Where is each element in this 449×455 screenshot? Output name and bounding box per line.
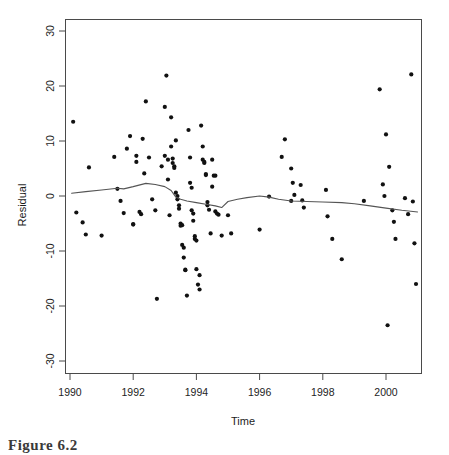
data-point: [197, 287, 201, 291]
data-point: [160, 164, 164, 168]
data-point: [118, 199, 122, 203]
data-point: [131, 223, 135, 227]
y-tick-label: -20: [44, 298, 56, 313]
data-point: [384, 132, 388, 136]
data-point: [139, 212, 143, 216]
data-point: [87, 165, 91, 169]
y-tick-label: 10: [44, 135, 56, 147]
x-tick-label: 1994: [185, 386, 209, 398]
data-point: [387, 165, 391, 169]
data-point: [163, 105, 167, 109]
data-point: [362, 199, 366, 203]
data-point: [411, 199, 415, 203]
x-tick-label: 1992: [122, 386, 146, 398]
data-point: [81, 220, 85, 224]
data-point: [163, 154, 167, 158]
data-point: [385, 323, 389, 327]
data-point: [177, 207, 181, 211]
data-point: [186, 128, 190, 132]
data-point: [403, 196, 407, 200]
data-point: [280, 155, 284, 159]
x-axis-title: Time: [231, 415, 255, 427]
data-point: [128, 134, 132, 138]
data-point: [180, 223, 184, 227]
data-point: [122, 211, 126, 215]
data-point: [84, 232, 88, 236]
data-point: [283, 137, 287, 141]
data-point: [150, 197, 154, 201]
data-point: [392, 220, 396, 224]
data-point: [201, 144, 205, 148]
data-point: [125, 147, 129, 151]
data-point: [112, 155, 116, 159]
y-tick-label: -30: [44, 353, 56, 368]
data-point: [74, 210, 78, 214]
data-point: [182, 246, 186, 250]
data-point: [174, 138, 178, 142]
data-point: [183, 268, 187, 272]
data-point: [289, 166, 293, 170]
data-point: [207, 208, 211, 212]
data-point: [382, 194, 386, 198]
data-point: [171, 157, 175, 161]
data-point: [100, 234, 104, 238]
data-point: [325, 214, 329, 218]
data-point: [71, 120, 75, 124]
y-axis-title: Residual: [16, 184, 28, 227]
y-tick-label: 30: [44, 25, 56, 37]
data-point: [406, 212, 410, 216]
data-point: [182, 256, 186, 260]
data-point: [194, 267, 198, 271]
data-point: [141, 137, 145, 141]
data-point: [324, 188, 328, 192]
data-point: [226, 213, 230, 217]
x-tick-label: 1998: [311, 386, 335, 398]
data-point: [188, 155, 192, 159]
data-point: [340, 257, 344, 261]
data-point: [199, 124, 203, 128]
data-point: [204, 173, 208, 177]
data-point: [291, 181, 295, 185]
data-point: [393, 237, 397, 241]
data-point: [147, 155, 151, 159]
figure-container: 3020100-10-20-30 19901992199419961998200…: [0, 0, 449, 455]
data-point: [414, 282, 418, 286]
figure-caption: Figure 6.2: [8, 437, 78, 455]
data-point: [155, 297, 159, 301]
data-point: [134, 154, 138, 158]
data-point: [210, 158, 214, 162]
x-tick-label: 1990: [58, 386, 82, 398]
residual-scatter-plot: 3020100-10-20-30 19901992199419961998200…: [0, 0, 449, 455]
data-point: [197, 273, 201, 277]
data-point: [169, 115, 173, 119]
data-point: [209, 231, 213, 235]
data-point: [166, 177, 170, 181]
data-point: [409, 72, 413, 76]
data-point: [299, 183, 303, 187]
x-tick-label: 2000: [374, 386, 398, 398]
data-point: [167, 213, 171, 217]
data-point: [210, 185, 214, 189]
data-point: [191, 212, 195, 216]
data-point: [213, 174, 217, 178]
data-point: [164, 73, 168, 77]
data-point: [216, 213, 220, 217]
data-point: [194, 238, 198, 242]
data-point: [134, 160, 138, 164]
data-point: [229, 231, 233, 235]
data-point: [166, 158, 170, 162]
y-tick-label: 0: [44, 193, 56, 199]
data-point: [142, 171, 146, 175]
data-point: [196, 282, 200, 286]
y-tick-label: -10: [44, 243, 56, 258]
data-point: [185, 293, 189, 297]
data-point: [190, 186, 194, 190]
data-point: [191, 219, 195, 223]
data-point: [188, 181, 192, 185]
data-point: [220, 234, 224, 238]
data-point: [172, 166, 176, 170]
data-point: [169, 144, 173, 148]
data-point: [330, 237, 334, 241]
data-point: [258, 227, 262, 231]
data-point: [153, 208, 157, 212]
